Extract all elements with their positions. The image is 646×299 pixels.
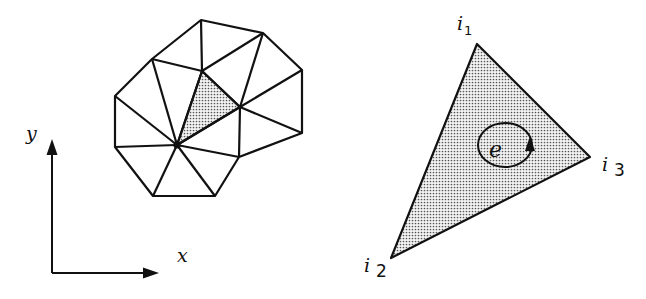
node-subscript: 3 xyxy=(614,160,625,180)
element-label: e xyxy=(489,137,502,162)
shared-node xyxy=(175,143,180,148)
node-label-i3: i3 xyxy=(602,153,625,180)
y-arrow-icon xyxy=(47,139,58,155)
x-axis-label: x xyxy=(177,244,188,266)
node-name: i xyxy=(602,153,608,175)
y-axis-label: y xyxy=(25,122,37,144)
node-name: i xyxy=(364,254,370,276)
triangular-mesh xyxy=(115,20,302,196)
shaded-element-in-mesh xyxy=(177,71,240,145)
node-label-i2: i2 xyxy=(364,254,387,281)
x-arrow-icon xyxy=(143,268,159,279)
node-name: i xyxy=(457,12,463,34)
node-label-i1: i1 xyxy=(457,12,472,38)
node-subscript: 2 xyxy=(376,261,387,281)
fem-diagram: y x e i1 i2 i3 xyxy=(0,0,646,299)
node-subscript: 1 xyxy=(464,23,472,38)
coordinate-axes xyxy=(47,139,160,279)
